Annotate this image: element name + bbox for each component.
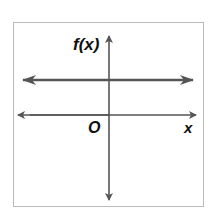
y-axis-label: f(x) [73, 35, 100, 54]
x-axis-label: x [183, 119, 193, 136]
graph: f(x) O x [0, 0, 214, 210]
origin-label: O [88, 119, 101, 136]
